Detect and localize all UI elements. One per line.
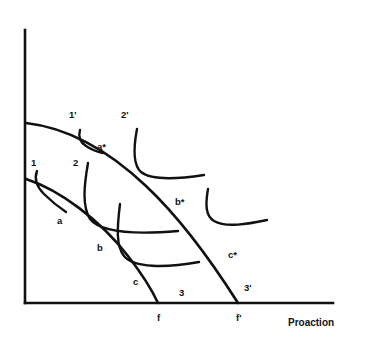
figure-background	[0, 0, 372, 344]
curve-label-3: 3	[179, 288, 184, 298]
tangency-label-c-star: c*	[228, 250, 237, 260]
x-intercept-label-f: f	[157, 313, 160, 323]
curve-label-1-prime: 1'	[69, 110, 77, 120]
curve-label-1: 1	[31, 158, 36, 168]
tangency-label-b-star: b*	[175, 197, 185, 207]
curve-label-2-prime: 2'	[121, 110, 129, 120]
x-axis-label: Proaction	[288, 318, 334, 328]
curve-label-2: 2	[73, 158, 78, 168]
tangency-label-b: b	[97, 243, 103, 253]
tangency-label-a: a	[57, 216, 62, 226]
economics-transformation-diagram	[0, 0, 372, 344]
tangency-label-a-star: a*	[97, 142, 106, 152]
x-intercept-label-f-prime: f'	[236, 313, 241, 323]
tangency-label-c: c	[133, 277, 138, 287]
curve-label-3-prime: 3'	[244, 283, 252, 293]
